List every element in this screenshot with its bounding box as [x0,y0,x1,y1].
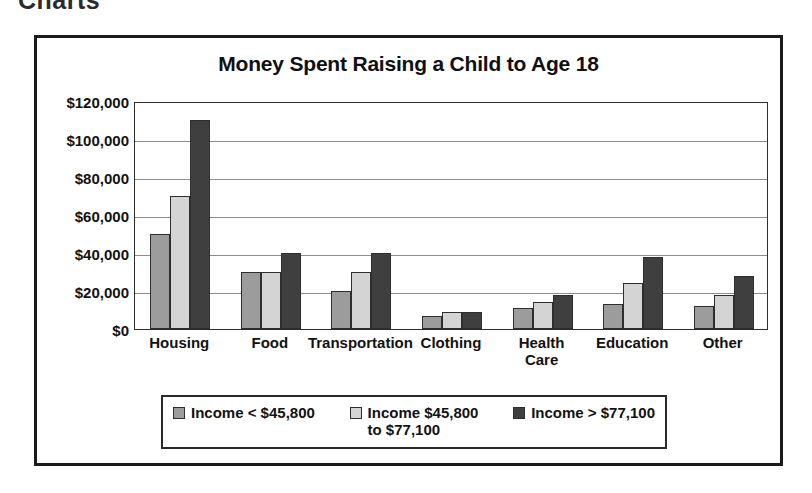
x-tick-label: Education [596,334,669,351]
x-tick-label: Housing [149,334,209,351]
bar-group [588,103,679,329]
bar[interactable] [734,276,754,329]
bar[interactable] [553,295,573,329]
x-tick-label: Food [252,334,289,351]
y-tick-label: $80,000 [37,170,129,187]
bar[interactable] [351,272,371,329]
y-tick-label: $120,000 [37,94,129,111]
bar[interactable] [623,283,643,329]
plot-area [134,102,768,330]
legend-item-label: Income > $77,100 [531,404,655,421]
bar-group [678,103,769,329]
scan-top-cut-heading: Charts [18,0,208,12]
bar[interactable] [170,196,190,329]
chart-legend: Income < $45,800Income $45,800 to $77,10… [161,395,667,449]
bar[interactable] [513,308,533,329]
bar-group [407,103,498,329]
bar[interactable] [241,272,261,329]
legend-item[interactable]: Income > $77,100 [513,404,655,421]
legend-item-label: Income < $45,800 [191,404,315,421]
bar[interactable] [694,306,714,329]
bar[interactable] [643,257,663,329]
bars-layer [135,103,767,329]
bar[interactable] [150,234,170,329]
y-tick-label: $40,000 [37,246,129,263]
legend-item[interactable]: Income $45,800 to $77,100 [350,404,479,438]
bar-group [226,103,317,329]
legend-item-label: Income $45,800 to $77,100 [368,404,479,438]
y-tick-label: $100,000 [37,132,129,149]
chart-title: Money Spent Raising a Child to Age 18 [37,52,780,76]
x-tick-label: Health Care [519,334,565,368]
bar[interactable] [714,295,734,329]
bar[interactable] [371,253,391,329]
y-tick-label: $60,000 [37,208,129,225]
bar[interactable] [442,312,462,329]
y-tick-label: $0 [37,322,129,339]
x-tick-label: Other [703,334,743,351]
bar-group [316,103,407,329]
bar-group [497,103,588,329]
chart-figure-frame: Money Spent Raising a Child to Age 18 $0… [34,35,783,466]
bar[interactable] [603,304,623,329]
x-axis: HousingFoodTransportationClothingHealth … [134,334,768,382]
bar[interactable] [190,120,210,329]
x-tick-label: Clothing [421,334,482,351]
y-tick-label: $20,000 [37,284,129,301]
bar[interactable] [261,272,281,329]
bar[interactable] [462,312,482,329]
bar[interactable] [281,253,301,329]
bar[interactable] [533,302,553,329]
bar[interactable] [422,316,442,329]
legend-swatch-mid-income [350,407,362,419]
y-axis: $0$20,000$40,000$60,000$80,000$100,000$1… [37,102,129,330]
legend-item[interactable]: Income < $45,800 [173,404,315,421]
bar[interactable] [331,291,351,329]
legend-swatch-high-income [513,407,525,419]
x-tick-label: Transportation [308,334,413,351]
bar-group [135,103,226,329]
plot-wrapper: $0$20,000$40,000$60,000$80,000$100,000$1… [134,102,768,330]
legend-swatch-low-income [173,407,185,419]
